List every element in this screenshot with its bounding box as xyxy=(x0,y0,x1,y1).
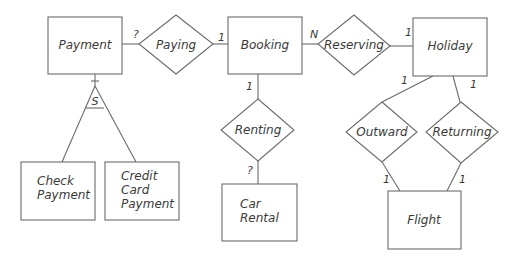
cardinality: 1 xyxy=(459,173,466,186)
cardinality: 1 xyxy=(405,26,412,39)
relationship-label: Paying xyxy=(156,38,197,52)
relationship-paying[interactable]: Paying xyxy=(139,15,213,74)
cardinality: 1 xyxy=(401,74,408,87)
relationship-label: Outward xyxy=(356,125,408,139)
entity-booking[interactable]: Booking xyxy=(228,17,302,74)
cardinality: 1 xyxy=(246,80,253,93)
cardinality: ? xyxy=(247,164,253,177)
cardinality: 1 xyxy=(383,173,390,186)
entity-label-line: Rental xyxy=(240,211,279,225)
entity-label-line: Card xyxy=(121,183,150,197)
er-diagram: Payment Booking Holiday Check Payment Cr… xyxy=(0,0,514,261)
relationship-renting[interactable]: Renting xyxy=(221,99,294,161)
entity-car-rental[interactable]: Car Rental xyxy=(222,184,297,241)
relationship-outward[interactable]: Outward xyxy=(346,102,417,162)
cardinality: 1 xyxy=(218,31,225,44)
entity-label: Booking xyxy=(241,38,290,52)
relationship-label: Reserving xyxy=(324,38,384,52)
relationship-label: Returning xyxy=(432,125,492,139)
edge-holiday-returning xyxy=(453,76,460,102)
cardinality: N xyxy=(310,28,318,41)
entity-label: Flight xyxy=(407,213,442,227)
relationship-label: Renting xyxy=(235,123,282,137)
specialization-label: S xyxy=(92,95,99,108)
entity-label-line: Payment xyxy=(121,197,175,211)
entity-payment[interactable]: Payment xyxy=(48,17,122,74)
edge-spec-credit-card-payment xyxy=(95,86,136,162)
cardinality: 1 xyxy=(470,78,477,91)
entity-label-line: Check xyxy=(37,174,75,188)
entity-label-line: Payment xyxy=(37,188,91,202)
relationship-reserving[interactable]: Reserving xyxy=(318,15,390,75)
entity-flight[interactable]: Flight xyxy=(388,191,461,249)
edge-spec-check-payment xyxy=(62,86,95,162)
entity-label: Payment xyxy=(58,38,112,52)
entity-label-line: Car xyxy=(240,197,262,211)
entity-label: Holiday xyxy=(427,39,473,53)
entity-credit-card-payment[interactable]: Credit Card Payment xyxy=(105,162,179,220)
entity-label-line: Credit xyxy=(121,169,159,183)
entity-check-payment[interactable]: Check Payment xyxy=(21,162,95,220)
cardinality: ? xyxy=(133,28,139,41)
relationship-returning[interactable]: Returning xyxy=(426,102,498,163)
entity-holiday[interactable]: Holiday xyxy=(413,18,487,76)
